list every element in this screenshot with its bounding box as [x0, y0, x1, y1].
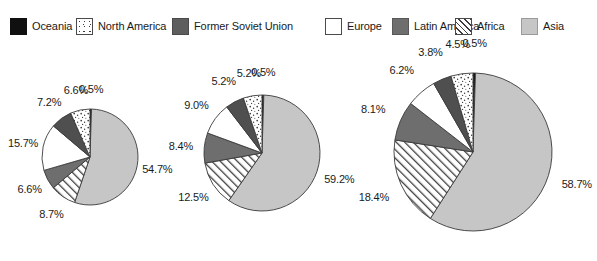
- pie-slice-label-latinamerica: 6.6%: [18, 184, 42, 195]
- pie-1: 0.5%54.7%8.7%6.6%15.7%7.2%6.6%: [0, 63, 184, 251]
- legend-item-label: Former Soviet Union: [194, 21, 293, 32]
- legend-swatch-oceania-icon: [10, 18, 27, 35]
- pie-slice-label-europe: 9.0%: [184, 99, 208, 110]
- legend-swatch-europe-icon: [325, 18, 342, 35]
- legend-item-label: North America: [98, 21, 166, 32]
- pie-slice-label-northamerica: 4.5%: [446, 39, 470, 50]
- legend-item-northamerica[interactable]: North America: [76, 18, 166, 35]
- pie-charts-container: 0.5%54.7%8.7%6.6%15.7%7.2%6.6%0.5%59.2%1…: [0, 39, 567, 261]
- pie-slice-label-europe: 15.7%: [8, 137, 38, 148]
- pie-slice-label-latinamerica: 8.4%: [169, 140, 193, 151]
- legend-swatch-fsu-icon: [172, 18, 189, 35]
- pie-slice-label-northamerica: 6.6%: [64, 85, 88, 96]
- pie-slice-label-europe: 6.2%: [390, 64, 414, 75]
- pie-slice-label-northamerica: 5.2%: [237, 67, 261, 78]
- pie-slice-label-fsu: 7.2%: [37, 97, 61, 108]
- legend-item-label: Oceania: [32, 21, 72, 32]
- pie-slice-label-fsu: 5.2%: [212, 76, 236, 87]
- pie-slice-label-fsu: 3.8%: [418, 46, 442, 57]
- pie-slice-label-latinamerica: 8.1%: [361, 103, 385, 114]
- pie-slice-label-asia: 58.7%: [562, 179, 592, 190]
- pie-2: 0.5%59.2%12.5%8.4%9.0%5.2%5.2%: [158, 49, 366, 257]
- pie-3: 0.5%58.7%18.4%8.1%6.2%3.8%4.5%: [348, 27, 597, 261]
- pie-slice-label-africa: 18.4%: [359, 191, 389, 202]
- legend-item-fsu[interactable]: Former Soviet Union: [172, 18, 293, 35]
- pie-slice-label-africa: 12.5%: [178, 191, 208, 202]
- pie-slice-label-africa: 8.7%: [39, 208, 63, 219]
- legend-swatch-northamerica-icon: [76, 18, 93, 35]
- legend-item-oceania[interactable]: Oceania: [10, 18, 72, 35]
